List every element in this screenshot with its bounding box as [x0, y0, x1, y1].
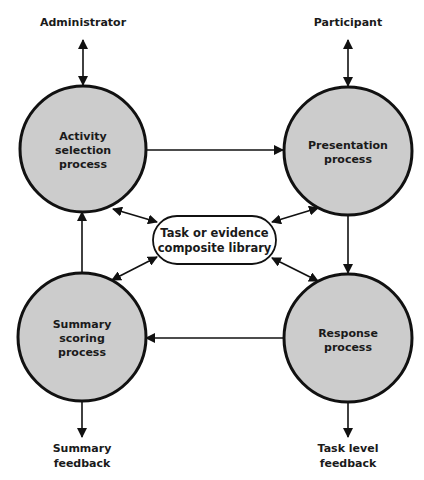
svg-text:process: process [324, 341, 372, 354]
svg-text:process: process [324, 153, 372, 166]
svg-text:Presentation: Presentation [308, 139, 388, 152]
scoring-library-arrow [112, 257, 157, 280]
composite-library-node: Task or evidence composite library [153, 216, 276, 264]
presentation-process-node: Presentation process [284, 87, 412, 215]
svg-text:Activity: Activity [59, 130, 106, 143]
activity-selection-process-node: Activity selection process [20, 86, 146, 212]
svg-text:Task or evidence: Task or evidence [160, 226, 268, 240]
svg-text:Task level: Task level [318, 442, 379, 455]
svg-text:composite library: composite library [158, 241, 272, 255]
svg-text:selection: selection [55, 144, 111, 157]
participant-label: Participant [314, 16, 382, 29]
response-library-arrow [272, 258, 318, 281]
svg-text:feedback: feedback [320, 457, 377, 470]
task-level-feedback-label: Task level feedback [318, 442, 379, 470]
svg-text:Response: Response [318, 327, 378, 340]
svg-text:process: process [59, 158, 107, 171]
response-process-node: Response process [284, 274, 412, 402]
process-diagram: Administrator Participant Summary feedba… [0, 0, 424, 480]
svg-text:scoring: scoring [59, 332, 105, 345]
svg-text:Summary: Summary [53, 442, 112, 455]
summary-scoring-process-node: Summary scoring process [18, 273, 146, 401]
summary-feedback-label: Summary feedback [53, 442, 112, 470]
svg-text:Summary: Summary [53, 318, 112, 331]
administrator-label: Administrator [40, 16, 127, 29]
svg-text:feedback: feedback [54, 457, 111, 470]
svg-text:process: process [58, 346, 106, 359]
presentation-library-arrow [272, 208, 318, 222]
selection-library-arrow [113, 209, 157, 222]
